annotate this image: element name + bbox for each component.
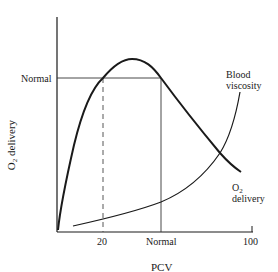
blood-viscosity-label-line1: Blood xyxy=(226,69,250,80)
x-tick-normal: Normal xyxy=(146,236,177,247)
o2-delivery-label-line2: delivery xyxy=(232,193,265,204)
blood-viscosity-curve xyxy=(73,92,240,226)
diagram-canvas xyxy=(0,0,278,272)
o2-delivery-curve xyxy=(58,59,241,230)
y-axis-label-text: delivery xyxy=(5,120,17,159)
x-tick-20: 20 xyxy=(97,236,107,247)
blood-viscosity-label-line2: viscosity xyxy=(226,80,262,91)
y-axis-label-subscript: 2 xyxy=(11,159,19,163)
x-tick-100: 100 xyxy=(243,236,258,247)
x-axis-label: PCV xyxy=(151,262,172,272)
y-axis-label: O2 delivery xyxy=(5,120,19,170)
y-axis-label-o: O xyxy=(5,162,17,170)
y-tick-normal: Normal xyxy=(21,73,52,84)
pcv-o2-delivery-diagram: O2 delivery Normal 20 Normal 100 PCV Blo… xyxy=(0,0,278,272)
